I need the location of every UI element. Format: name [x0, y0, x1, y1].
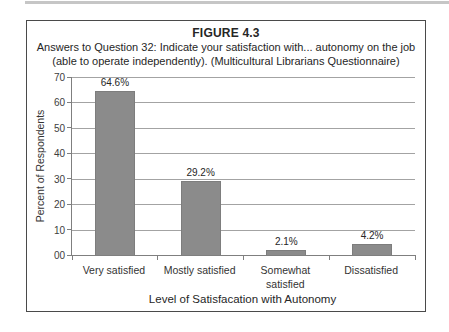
- category-label: Somewhat satisfied: [243, 264, 329, 291]
- category-axis-labels: Very satisfiedMostly satisfiedSomewhat s…: [71, 264, 414, 291]
- bar-slot: 2.1%: [244, 77, 330, 255]
- page: FIGURE 4.3 Answers to Question 32: Indic…: [0, 0, 449, 332]
- y-tick-label: 10: [54, 224, 65, 235]
- x-tick-mark: [329, 255, 330, 260]
- bar-slots: 64.6%29.2%2.1%4.2%: [72, 77, 415, 255]
- x-tick-mark: [157, 255, 158, 260]
- x-tick-mark: [415, 255, 416, 260]
- bar-value-label: 2.1%: [244, 236, 330, 247]
- category-label: Dissatisfied: [328, 264, 414, 291]
- y-tick-label: 30: [54, 173, 65, 184]
- bar-value-label: 29.2%: [158, 167, 244, 178]
- y-axis-title: Percent of Respondents: [34, 110, 46, 223]
- category-label: Very satisfied: [71, 264, 157, 291]
- bar-value-label: 64.6%: [72, 77, 158, 88]
- y-tick-label: 40: [54, 148, 65, 159]
- plot-area: 706050403020100064.6%29.2%2.1%4.2%: [71, 77, 415, 256]
- bar-value-label: 4.2%: [329, 230, 415, 241]
- bar-chart: Percent of Respondents 70605040302010006…: [27, 21, 425, 311]
- top-rule-divider: [25, 1, 449, 4]
- bar: [95, 91, 135, 255]
- bar-slot: 29.2%: [158, 77, 244, 255]
- x-tick-mark: [243, 255, 244, 260]
- y-tick-label: 70: [54, 72, 65, 83]
- x-axis-title: Level of Satisfacation with Autonomy: [71, 293, 414, 305]
- y-tick-label: 50: [54, 122, 65, 133]
- bar: [181, 181, 221, 255]
- y-tick-label: 00: [54, 250, 65, 261]
- bar-slot: 64.6%: [72, 77, 158, 255]
- y-tick-label: 20: [54, 199, 65, 210]
- y-tick-label: 60: [54, 97, 65, 108]
- figure-box: FIGURE 4.3 Answers to Question 32: Indic…: [26, 20, 426, 312]
- bar: [352, 244, 392, 255]
- bar: [266, 250, 306, 255]
- x-tick-mark: [72, 255, 73, 260]
- category-label: Mostly satisfied: [157, 264, 243, 291]
- bar-slot: 4.2%: [329, 77, 415, 255]
